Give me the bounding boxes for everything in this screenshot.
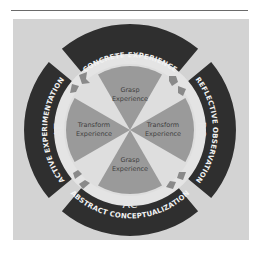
sector-label-right-line1: Transform [146,121,179,129]
stage-abbr-ae: AE [52,123,65,138]
learning-cycle-diagram: CONCRETE EXPERIENCE CE REFLECTIVE OBSERV… [0,0,259,253]
sector-label-left-line2: Experience [76,130,112,138]
sector-label-right-line2: Experience [145,130,181,138]
stage-abbr-ac: AC [122,198,137,211]
sector-label-top-line2: Experience [112,95,148,103]
sector-label-left-line1: Transform [77,121,110,129]
sector-label-top-line1: Grasp [120,86,139,94]
stage-abbr-ro: RO [195,122,208,139]
sector-label-bottom-line1: Grasp [120,156,139,164]
sector-label-bottom-line2: Experience [112,165,148,173]
stage-abbr-ce: CE [123,52,138,65]
